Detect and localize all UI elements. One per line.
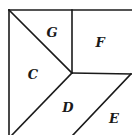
region-label-f: F [94, 35, 105, 50]
diagonal-d-e [73, 74, 131, 135]
region-label-d: D [61, 100, 74, 115]
region-label-c: C [28, 67, 39, 82]
dissection-diagram: G F C D E [0, 0, 132, 135]
region-label-g: G [46, 25, 57, 40]
horizontal-f-de [72, 73, 131, 74]
diagonal-g-c [9, 10, 72, 73]
region-label-e: E [108, 111, 120, 126]
